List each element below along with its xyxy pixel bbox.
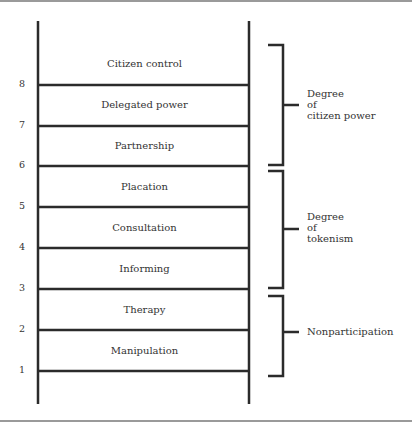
rung-number-8: 8 — [14, 78, 30, 89]
group-label-tokenism: Degree of tokenism — [307, 211, 353, 244]
rung-label-manipulation: Manipulation — [40, 345, 249, 356]
rung-label-therapy: Therapy — [40, 304, 249, 315]
rung-label-consultation: Consultation — [40, 222, 249, 233]
rung-number-6: 6 — [14, 159, 30, 170]
rung-label-placation: Placation — [40, 181, 249, 192]
rung-number-2: 2 — [14, 323, 30, 334]
rung-label-informing: Informing — [40, 263, 249, 274]
rung-number-1: 1 — [14, 364, 30, 375]
bracket-citizen-power — [268, 45, 299, 165]
group-label-citizen-power: Degree of citizen power — [307, 88, 376, 121]
rung-label-citizen-control: Citizen control — [40, 58, 249, 69]
rung-number-3: 3 — [14, 282, 30, 293]
rung-label-partnership: Partnership — [40, 140, 249, 151]
bracket-tokenism — [268, 171, 299, 288]
rung-label-delegated-power: Delegated power — [40, 99, 249, 110]
bracket-nonparticipation — [268, 296, 299, 376]
rung-number-4: 4 — [14, 241, 30, 252]
rung-number-7: 7 — [14, 119, 30, 130]
group-label-nonparticipation: Nonparticipation — [307, 326, 393, 337]
rung-number-5: 5 — [14, 200, 30, 211]
